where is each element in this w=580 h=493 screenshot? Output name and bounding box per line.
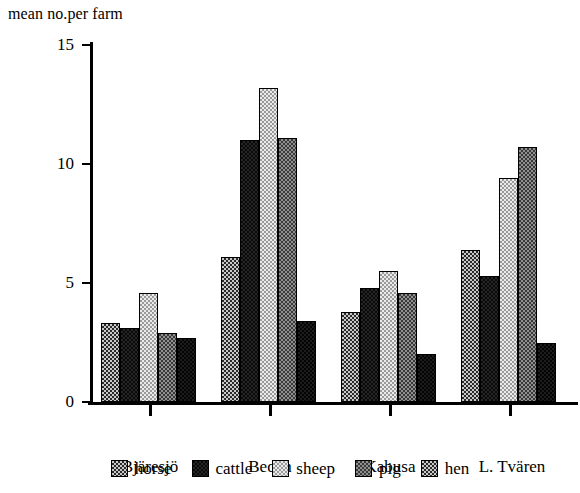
legend-label-horse: horse [135, 460, 172, 477]
legend-label-sheep: sheep [296, 460, 335, 477]
bar-group-beden [221, 45, 319, 402]
y-axis-tick-0 [82, 401, 90, 403]
legend-item-cattle[interactable]: cattle [192, 460, 253, 477]
x-axis-tick-beden [269, 405, 272, 416]
chart-title: mean no.per farm [8, 4, 123, 24]
bar-kabusa-hen[interactable] [417, 354, 436, 402]
x-axis-tick-bjaresjo [149, 405, 152, 416]
bar-l-tvaren-pig[interactable] [518, 147, 537, 402]
legend-swatch-horse-icon [111, 460, 128, 477]
y-axis-tick-10 [82, 163, 90, 165]
bar-kabusa-sheep[interactable] [379, 271, 398, 402]
bar-beden-hen[interactable] [297, 321, 316, 402]
y-tick-label-5: 5 [66, 274, 75, 291]
bar-group-bjaresjo [101, 45, 199, 402]
legend-label-hen: hen [445, 460, 470, 477]
legend-item-hen[interactable]: hen [421, 460, 470, 477]
y-tick-label-0: 0 [66, 393, 75, 410]
bar-l-tvaren-horse[interactable] [461, 250, 480, 402]
plot-area: Bjäresjö Beden Kabusa L. Tvären [90, 45, 578, 402]
bar-bjaresjo-horse[interactable] [101, 323, 120, 402]
bar-group-kabusa [341, 45, 439, 402]
bar-bjaresjo-cattle[interactable] [120, 328, 139, 402]
x-axis-tick-l-tvaren [509, 405, 512, 416]
legend-swatch-pig-icon [355, 460, 372, 477]
legend-swatch-hen-icon [421, 460, 438, 477]
x-axis-tick-kabusa [389, 405, 392, 416]
y-axis-labels: 15 10 5 0 [0, 45, 82, 402]
bar-beden-cattle[interactable] [240, 140, 259, 402]
bar-kabusa-horse[interactable] [341, 312, 360, 402]
bar-beden-sheep[interactable] [259, 88, 278, 402]
y-axis-line [90, 42, 93, 405]
bar-bjaresjo-pig[interactable] [158, 333, 177, 402]
y-axis-tick-15 [82, 44, 90, 46]
bar-beden-pig[interactable] [278, 138, 297, 402]
y-axis-tick-5 [82, 282, 90, 284]
bar-kabusa-cattle[interactable] [360, 288, 379, 402]
bar-bjaresjo-sheep[interactable] [139, 293, 158, 402]
bar-bjaresjo-hen[interactable] [177, 338, 196, 402]
bar-l-tvaren-cattle[interactable] [480, 276, 499, 402]
bar-l-tvaren-hen[interactable] [537, 343, 556, 403]
legend-item-sheep[interactable]: sheep [272, 460, 335, 477]
legend-label-pig: pig [379, 460, 401, 477]
x-axis-line [88, 402, 578, 405]
y-tick-label-15: 15 [57, 36, 74, 53]
bar-l-tvaren-sheep[interactable] [499, 178, 518, 402]
legend-swatch-sheep-icon [272, 460, 289, 477]
legend-item-pig[interactable]: pig [355, 460, 401, 477]
chart-legend: horse cattle sheep pig hen [0, 460, 580, 477]
bar-chart: mean no.per farm 15 10 5 0 [0, 0, 580, 493]
legend-swatch-cattle-icon [192, 460, 209, 477]
y-tick-label-10: 10 [57, 155, 74, 172]
bar-group-l-tvaren [461, 45, 559, 402]
bar-beden-horse[interactable] [221, 257, 240, 402]
legend-item-horse[interactable]: horse [111, 460, 172, 477]
legend-label-cattle: cattle [216, 460, 253, 477]
bar-kabusa-pig[interactable] [398, 293, 417, 402]
